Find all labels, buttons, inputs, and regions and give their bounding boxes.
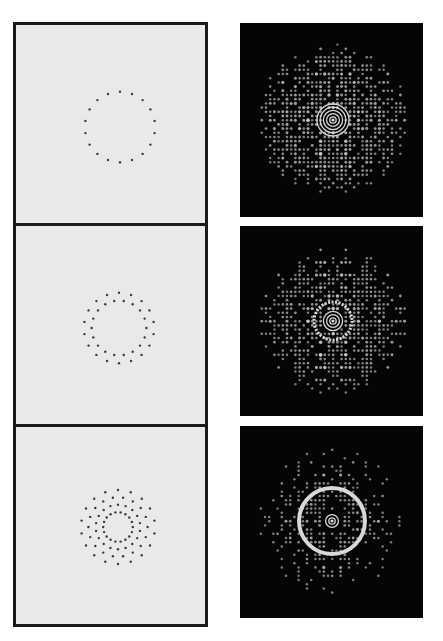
diffraction-spot <box>369 478 371 480</box>
diffraction-spot <box>357 127 360 130</box>
diffraction-spot <box>370 148 373 151</box>
diffraction-spot <box>311 370 314 373</box>
diffraction-spot <box>306 511 309 514</box>
diffraction-spot <box>353 332 356 335</box>
diffraction-spot <box>293 562 296 565</box>
diffraction-spot <box>361 106 364 109</box>
diffraction-spot <box>302 491 304 493</box>
diffraction-spot <box>386 136 389 139</box>
diffraction-spot <box>336 161 339 164</box>
diffraction-spot <box>378 144 380 146</box>
diffraction-spot <box>345 94 348 97</box>
diffraction-spot <box>340 286 343 289</box>
diffraction-spot <box>298 379 300 381</box>
diffraction-spot <box>315 56 318 59</box>
diffraction-spot <box>365 290 368 293</box>
diffraction-spot <box>357 278 360 281</box>
diffraction-spot <box>344 558 347 561</box>
diffraction-spot <box>332 144 334 146</box>
diffraction-spot <box>403 106 406 109</box>
diffraction-spot <box>365 169 368 172</box>
diffraction-spot <box>289 524 291 526</box>
diffraction-spot <box>302 106 305 109</box>
diffraction-spot <box>357 295 359 297</box>
diffraction-spot <box>357 119 360 122</box>
diffraction-spot <box>332 257 334 259</box>
diffraction-spot <box>281 482 284 485</box>
diffraction-spot <box>323 273 327 277</box>
diffraction-spot <box>332 375 335 378</box>
diffraction-spot <box>370 345 373 348</box>
diffraction-spot <box>374 307 377 310</box>
diffraction-spot <box>323 503 326 506</box>
aperture-hole <box>140 507 142 509</box>
diffraction-spot <box>345 278 348 281</box>
diffraction-spot <box>307 148 310 151</box>
diffraction-spot <box>269 85 272 88</box>
diffraction-spot <box>298 94 301 97</box>
diffraction-spot <box>281 324 284 327</box>
diffraction-spot <box>311 144 314 147</box>
diffraction-spot <box>286 131 289 134</box>
diffraction-spot <box>378 98 381 101</box>
diffraction-spot <box>370 69 373 72</box>
diffraction-spot <box>328 370 331 373</box>
diffraction-spot <box>378 311 381 314</box>
diffraction-spot <box>307 157 310 160</box>
aperture-hole <box>123 354 125 356</box>
diffraction-spot <box>370 362 373 365</box>
diffraction-spot <box>303 362 306 365</box>
diffraction-spot <box>265 94 268 97</box>
diffraction-spot <box>345 391 347 393</box>
diffraction-spot <box>340 64 343 67</box>
diffraction-spot <box>336 152 339 155</box>
diffraction-spot <box>361 375 364 378</box>
diffraction-spot <box>306 507 309 510</box>
diffraction-spot <box>328 144 331 147</box>
diffraction-spot <box>311 165 314 168</box>
diffraction-spot <box>306 533 308 535</box>
diffraction-spot <box>336 341 339 344</box>
diffraction-spot <box>352 512 355 515</box>
aperture-hole <box>103 531 105 533</box>
diffraction-spot <box>340 291 342 293</box>
diffraction-spot <box>273 102 276 105</box>
diffraction-spot <box>323 482 326 485</box>
diffraction-spot <box>286 119 289 122</box>
aperture-hole <box>145 516 147 518</box>
diffraction-spot <box>307 332 310 335</box>
diffraction-spot <box>374 294 377 297</box>
diffraction-spot <box>336 294 339 297</box>
diffraction-spot <box>356 511 359 514</box>
diffraction-spot <box>365 278 368 281</box>
diffraction-spot <box>361 102 364 105</box>
diffraction-spot <box>403 119 406 122</box>
diffraction-spot <box>311 324 314 327</box>
diffraction-spot <box>273 299 276 302</box>
diffraction-spot <box>324 140 326 142</box>
diffraction-spot <box>273 110 276 113</box>
diffraction-spot <box>314 474 317 477</box>
diffraction-spot <box>352 528 355 531</box>
diffraction-spot <box>366 282 369 285</box>
diffraction-spot <box>344 85 347 88</box>
diffraction-spot <box>344 60 347 63</box>
diffraction-spot <box>361 144 363 146</box>
diffraction-spot <box>365 102 368 105</box>
diffraction-spot <box>303 324 306 327</box>
diffraction-spot <box>306 127 309 130</box>
diffraction-spot <box>374 265 376 267</box>
diffraction-spot <box>332 353 335 356</box>
diffraction-spot <box>348 482 351 485</box>
diffraction-spot <box>323 537 326 540</box>
diffraction-spot <box>277 136 279 138</box>
diffraction-spot <box>361 362 364 365</box>
diffraction-spot <box>353 106 356 109</box>
aperture-hole <box>83 321 85 323</box>
diffraction-spot <box>403 320 406 323</box>
diffraction-spot <box>273 136 276 139</box>
aperture-hole <box>106 516 108 518</box>
diffraction-spot <box>277 161 279 163</box>
diffraction-spot <box>387 161 390 164</box>
diffraction-spot <box>319 379 322 382</box>
